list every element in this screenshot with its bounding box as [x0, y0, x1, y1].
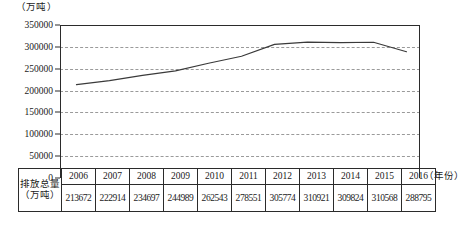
y-tick-label: 250000	[25, 64, 54, 74]
table-value-cell: 310568	[368, 185, 402, 212]
table-row-values: 2136722229142346972449892625432785513057…	[19, 185, 436, 212]
table-year-cell: 2007	[96, 169, 130, 185]
table-row-label-line2: （万吨）	[19, 190, 61, 201]
table-year-cell: 2016	[402, 169, 436, 185]
table-year-cell: 2009	[164, 169, 198, 185]
plot-area	[60, 25, 420, 178]
table-value-cell: 305774	[266, 185, 300, 212]
table-row-label: 排放总量 （万吨）	[19, 169, 62, 212]
y-tick-label: 300000	[25, 42, 54, 52]
series-polyline	[77, 42, 407, 85]
y-tick-label: 200000	[25, 86, 54, 96]
table-value-cell: 278551	[232, 185, 266, 212]
table-year-cell: 2012	[266, 169, 300, 185]
table-value-cell: 234697	[130, 185, 164, 212]
y-tick-label: 350000	[25, 20, 54, 30]
emissions-line-chart-figure: （万吨） （年份） 350000300000250000200000150000…	[0, 0, 473, 240]
table-value-cell: 244989	[164, 185, 198, 212]
table-year-cell: 2015	[368, 169, 402, 185]
table-year-cell: 2006	[62, 169, 96, 185]
emissions-data-table: 排放总量 （万吨） 200620072008200920102011201220…	[18, 168, 436, 212]
table-value-cell: 310921	[300, 185, 334, 212]
table-row-years: 排放总量 （万吨） 200620072008200920102011201220…	[19, 169, 436, 185]
table-year-cell: 2013	[300, 169, 334, 185]
y-tick-label: 50000	[29, 151, 53, 161]
y-tick-label: 150000	[25, 107, 54, 117]
table-year-cell: 2010	[198, 169, 232, 185]
table-value-cell: 309824	[334, 185, 368, 212]
table-value-cell: 288795	[402, 185, 436, 212]
table-year-cell: 2011	[232, 169, 266, 185]
table-value-cell: 262543	[198, 185, 232, 212]
emissions-series-line	[60, 25, 420, 178]
table-year-cell: 2008	[130, 169, 164, 185]
table-value-cell: 213672	[62, 185, 96, 212]
table-row-label-line1: 排放总量	[19, 179, 61, 190]
y-tick-label: 100000	[25, 129, 54, 139]
table-value-cell: 222914	[96, 185, 130, 212]
table-year-cell: 2014	[334, 169, 368, 185]
